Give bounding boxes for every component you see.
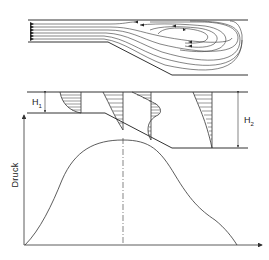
streamline-panel — [28, 20, 248, 75]
velocity-profile-4 — [193, 92, 212, 148]
h2-label: H2 — [244, 116, 254, 127]
channel-bottom — [27, 113, 248, 148]
y-axis-label: Druck — [10, 162, 20, 187]
pressure-curve — [25, 140, 237, 245]
h1-label: H1 — [32, 98, 42, 109]
inlet-arrows — [30, 22, 34, 41]
pressure-panel — [24, 115, 262, 245]
h2-label-sub: 2 — [251, 121, 254, 127]
bottom-wall-ramp — [28, 42, 248, 75]
h1-label-sub: 1 — [39, 103, 42, 109]
velocity-profile-3 — [132, 92, 161, 140]
velocity-profile-1 — [60, 92, 81, 113]
profile-panel — [27, 92, 248, 148]
diagram-canvas — [0, 0, 269, 260]
velocity-profile-2 — [103, 92, 123, 130]
recirculation-eddy — [140, 24, 226, 52]
